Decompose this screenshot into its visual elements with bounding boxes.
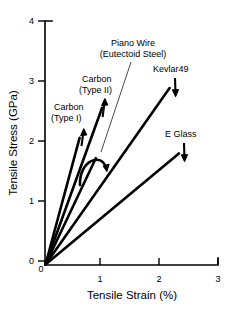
- label-carbon-type-ii-line1: Carbon: [82, 74, 112, 84]
- x-tick-label-0: 0: [38, 264, 43, 274]
- x-axis-title: Tensile Strain (%): [87, 289, 177, 301]
- y-tick-label-4: 4: [29, 16, 34, 26]
- arrow-e-glass-icon: [181, 143, 187, 162]
- label-kevlar49: Kevlar49: [153, 64, 189, 74]
- label-piano-wire-line1: Piano Wire: [111, 38, 155, 48]
- tensile-stress-strain-chart: 0 1 2 3 4 0 1 2 3 Tensile Strain (%) Ten…: [0, 0, 237, 309]
- label-carbon-type-i-line2: (Type I): [51, 113, 82, 123]
- label-piano-wire-line2: (Eutectoid Steel): [100, 49, 167, 59]
- x-tick-labels-group: 0 1 2 3: [38, 264, 220, 284]
- arrow-kevlar49-icon: [172, 78, 178, 97]
- y-tick-labels-group: 0 1 2 3 4: [29, 16, 34, 266]
- label-carbon-type-i-line1: Carbon: [54, 102, 84, 112]
- x-tick-label-1: 1: [97, 274, 102, 284]
- x-tick-label-3: 3: [215, 274, 220, 284]
- y-tick-label-2: 2: [29, 136, 34, 146]
- x-axis-line: [45, 258, 218, 265]
- y-tick-label-3: 3: [29, 76, 34, 86]
- label-carbon-type-ii-line2: (Type II): [79, 85, 112, 95]
- arrow-carbon-type-i-icon: [81, 129, 87, 146]
- x-ticks-group: [100, 258, 218, 265]
- x-tick-label-2: 2: [156, 274, 161, 284]
- y-axis-line: [45, 21, 52, 265]
- y-axis-title: Tensile Stress (GPa): [7, 90, 19, 196]
- chart-figure: 0 1 2 3 4 0 1 2 3 Tensile Strain (%) Ten…: [0, 0, 237, 309]
- label-e-glass: E Glass: [165, 129, 197, 139]
- y-tick-label-0: 0: [29, 256, 34, 266]
- y-ticks-group: [38, 21, 45, 261]
- y-tick-label-1: 1: [29, 196, 34, 206]
